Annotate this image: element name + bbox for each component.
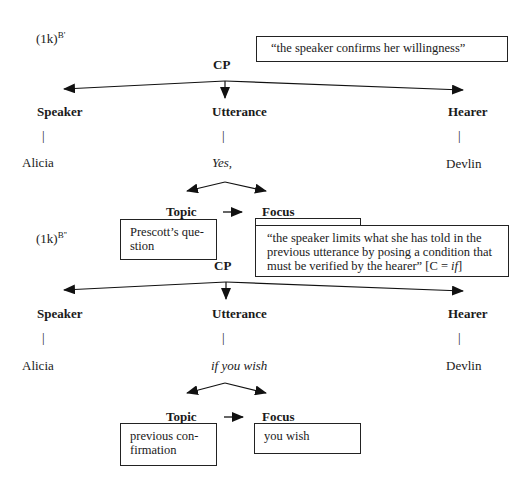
- focus-box-2: you wish: [254, 423, 361, 454]
- hearer-header-1: Hearer: [448, 104, 487, 120]
- example-label-1: (1k)B': [36, 30, 65, 47]
- hearer-link-1: |: [458, 128, 461, 144]
- focus-text: you wish: [264, 429, 310, 443]
- cp-node-1: CP: [213, 57, 230, 73]
- hearer-value-1: Devlin: [446, 156, 481, 172]
- speaker-link-2: |: [42, 330, 45, 346]
- utterance-header-1: Utterance: [212, 104, 267, 120]
- topic-header-1: Topic: [166, 204, 197, 220]
- cp-fan-arrows-2: [64, 282, 463, 299]
- utterance-split-arrows-2: [187, 383, 266, 393]
- hearer-header-2: Hearer: [448, 306, 487, 322]
- annotation-italic: if: [451, 259, 458, 273]
- annotation-text-end: ]: [458, 259, 462, 273]
- speaker-header-1: Speaker: [37, 104, 83, 120]
- speaker-link-1: |: [42, 128, 45, 144]
- speaker-header-2: Speaker: [37, 306, 83, 322]
- topic-text-line: Prescott’s que-: [130, 225, 207, 239]
- topic-text-line: stion: [130, 239, 207, 253]
- utterance-split-arrows-1: [187, 182, 266, 191]
- cp-node-2: CP: [214, 258, 231, 274]
- utterance-value-1: Yes,: [212, 155, 232, 171]
- utterance-header-2: Utterance: [212, 306, 267, 322]
- hearer-value-2: Devlin: [446, 358, 481, 374]
- annotation-box-2: “the speaker limits what she has told in…: [255, 225, 509, 277]
- speaker-value-2: Alicia: [22, 358, 54, 374]
- utterance-link-2: |: [222, 330, 225, 346]
- example-superscript: B': [58, 30, 66, 40]
- example-superscript: B'': [58, 230, 67, 240]
- example-label-2: (1k)B'': [36, 230, 67, 247]
- utterance-link-1: |: [222, 128, 225, 144]
- cp-fan-arrows-1: [64, 81, 463, 98]
- example-number: (1k): [36, 231, 58, 246]
- annotation-text: “the speaker confirms her willingness”: [271, 41, 465, 55]
- topic-box-2: previous con- firmation: [120, 423, 217, 466]
- topic-text-line: firmation: [130, 443, 207, 457]
- utterance-value-2: if you wish: [211, 358, 267, 374]
- example-number: (1k): [36, 31, 58, 46]
- annotation-box-1: “the speaker confirms her willingness”: [256, 36, 508, 62]
- topic-box-1: Prescott’s que- stion: [120, 219, 217, 260]
- speaker-value-1: Alicia: [22, 155, 54, 171]
- hearer-link-2: |: [458, 330, 461, 346]
- topic-text-line: previous con-: [130, 429, 207, 443]
